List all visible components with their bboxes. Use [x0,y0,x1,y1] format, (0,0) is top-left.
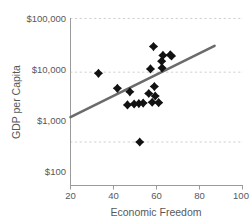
scatter-plot: $100,000 $10,000 $1,000 $100 20 40 60 80… [0,0,252,222]
x-tick-label-40: 40 [108,190,119,201]
x-tick-label-100: 100 [233,190,249,201]
x-tick-label-60: 60 [151,190,162,201]
y-tick-label-1000: $1,000 [37,115,66,126]
data-point [158,51,167,60]
data-point [135,137,144,146]
y-axis-tick-labels: $100,000 $10,000 $1,000 $100 [26,13,66,177]
chart-container: $100,000 $10,000 $1,000 $100 20 40 60 80… [0,0,252,222]
y-axis-title: GDP per Capita [10,65,22,139]
y-tick-label-100: $100 [45,166,66,177]
x-axis-title: Economic Freedom [110,206,201,218]
data-point-group [94,42,176,147]
data-point [123,100,132,109]
data-point [149,42,158,51]
x-axis-tick-labels: 20 40 60 80 100 [65,190,249,201]
x-tick-label-80: 80 [194,190,205,201]
gridlines [70,19,243,142]
x-tick-label-20: 20 [65,190,76,201]
y-tick-label-100000: $100,000 [26,13,66,24]
y-tick-label-10000: $10,000 [32,64,66,75]
data-point [94,69,103,78]
data-point [150,82,159,91]
